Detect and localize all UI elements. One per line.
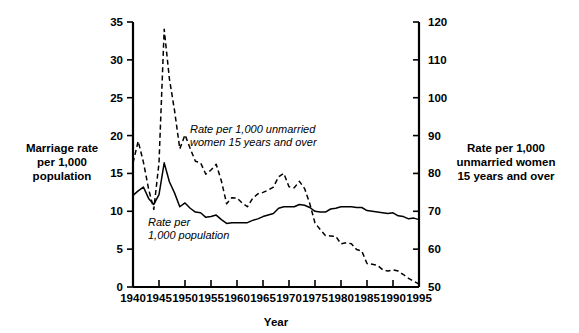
- chart-figure: 05101520253035 5060708090100110120 19401…: [0, 0, 579, 333]
- left-axis-title: Marriage rateper 1,000population: [26, 142, 98, 182]
- left-axis-tick-label: 5: [117, 243, 124, 255]
- left-axis-tick-label: 25: [110, 92, 123, 104]
- x-axis-tick-label: 1965: [250, 292, 276, 304]
- x-axis-tick-label: 1945: [146, 292, 172, 304]
- marriage-rate-dual-axis-line-chart: 05101520253035 5060708090100110120 19401…: [0, 0, 579, 333]
- x-axis-tick-label: 1955: [198, 292, 224, 304]
- right-axis-tick-label: 120: [428, 16, 447, 28]
- right-axis-title-line: unmarried women: [456, 156, 555, 168]
- series-line-unmarried-women: [133, 29, 419, 284]
- left-axis-title-line: Marriage rate: [26, 142, 98, 154]
- x-axis-tick-label: 1975: [302, 292, 328, 304]
- right-axis-tick-label: 60: [428, 243, 441, 255]
- x-axis-tick-label: 1940: [120, 292, 146, 304]
- x-axis-tick-label: 1960: [224, 292, 250, 304]
- x-axis-tick-label: 1980: [328, 292, 354, 304]
- x-axis-tick-label: 1970: [276, 292, 302, 304]
- right-axis-title-line: Rate per 1,000: [467, 142, 545, 154]
- annotation-population-line: 1,000 population: [148, 229, 229, 241]
- right-axis-tick-labels: 5060708090100110120: [428, 16, 447, 293]
- right-axis-title: Rate per 1,000unmarried women15 years an…: [456, 142, 555, 182]
- right-axis-title-line: 15 years and over: [457, 170, 555, 182]
- right-axis-tick-label: 80: [428, 167, 441, 179]
- x-axis-tick-label: 1990: [380, 292, 406, 304]
- annotation-population-line: Rate per: [148, 216, 192, 228]
- series-group: [133, 29, 419, 284]
- x-axis-tick-label: 1950: [172, 292, 198, 304]
- x-axis-title: Year: [264, 316, 289, 328]
- annotation-unmarried-women-line: Rate per 1,000 unmarried: [190, 123, 316, 135]
- annotation-unmarried-women-line: women 15 years and over: [190, 136, 318, 148]
- right-axis-tick-label: 100: [428, 92, 447, 104]
- left-axis-tick-label: 15: [110, 167, 123, 179]
- x-axis-tick-label: 1995: [406, 292, 432, 304]
- left-axis-tick-label: 35: [110, 16, 123, 28]
- left-axis-tick-label: 10: [110, 205, 123, 217]
- x-axis-tick-label: 1985: [354, 292, 380, 304]
- x-axis-tick-labels: 1940194519501955196019651970197519801985…: [120, 292, 432, 304]
- left-axis-tick-labels: 05101520253035: [110, 16, 123, 293]
- left-axis-title-line: population: [33, 170, 92, 182]
- left-axis-tick-label: 20: [110, 130, 123, 142]
- right-axis-tick-label: 70: [428, 205, 441, 217]
- right-axis-tick-label: 90: [428, 130, 441, 142]
- series-line-population: [133, 163, 419, 224]
- series-annotation-population: Rate per1,000 population: [148, 216, 229, 241]
- axes-group: [127, 22, 419, 287]
- right-axis-tick-label: 110: [428, 54, 447, 66]
- left-axis-tick-label: 30: [110, 54, 123, 66]
- left-axis-title-line: per 1,000: [37, 156, 87, 168]
- series-annotation-unmarried-women: Rate per 1,000 unmarriedwomen 15 years a…: [190, 123, 318, 148]
